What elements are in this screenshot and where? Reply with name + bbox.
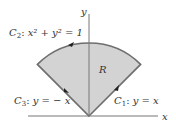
region-label: R — [98, 64, 107, 75]
y-axis-label: y — [80, 6, 87, 17]
c1-label: C1: y = x — [114, 95, 159, 108]
c2-label: C2: x² + y² = 1 — [9, 27, 83, 40]
x-axis-label: x — [162, 111, 168, 122]
diagram-canvas: y x R C2: x² + y² = 1 C3: y = − x C1: y … — [0, 0, 176, 127]
c3-label: C3: y = − x — [14, 95, 71, 108]
